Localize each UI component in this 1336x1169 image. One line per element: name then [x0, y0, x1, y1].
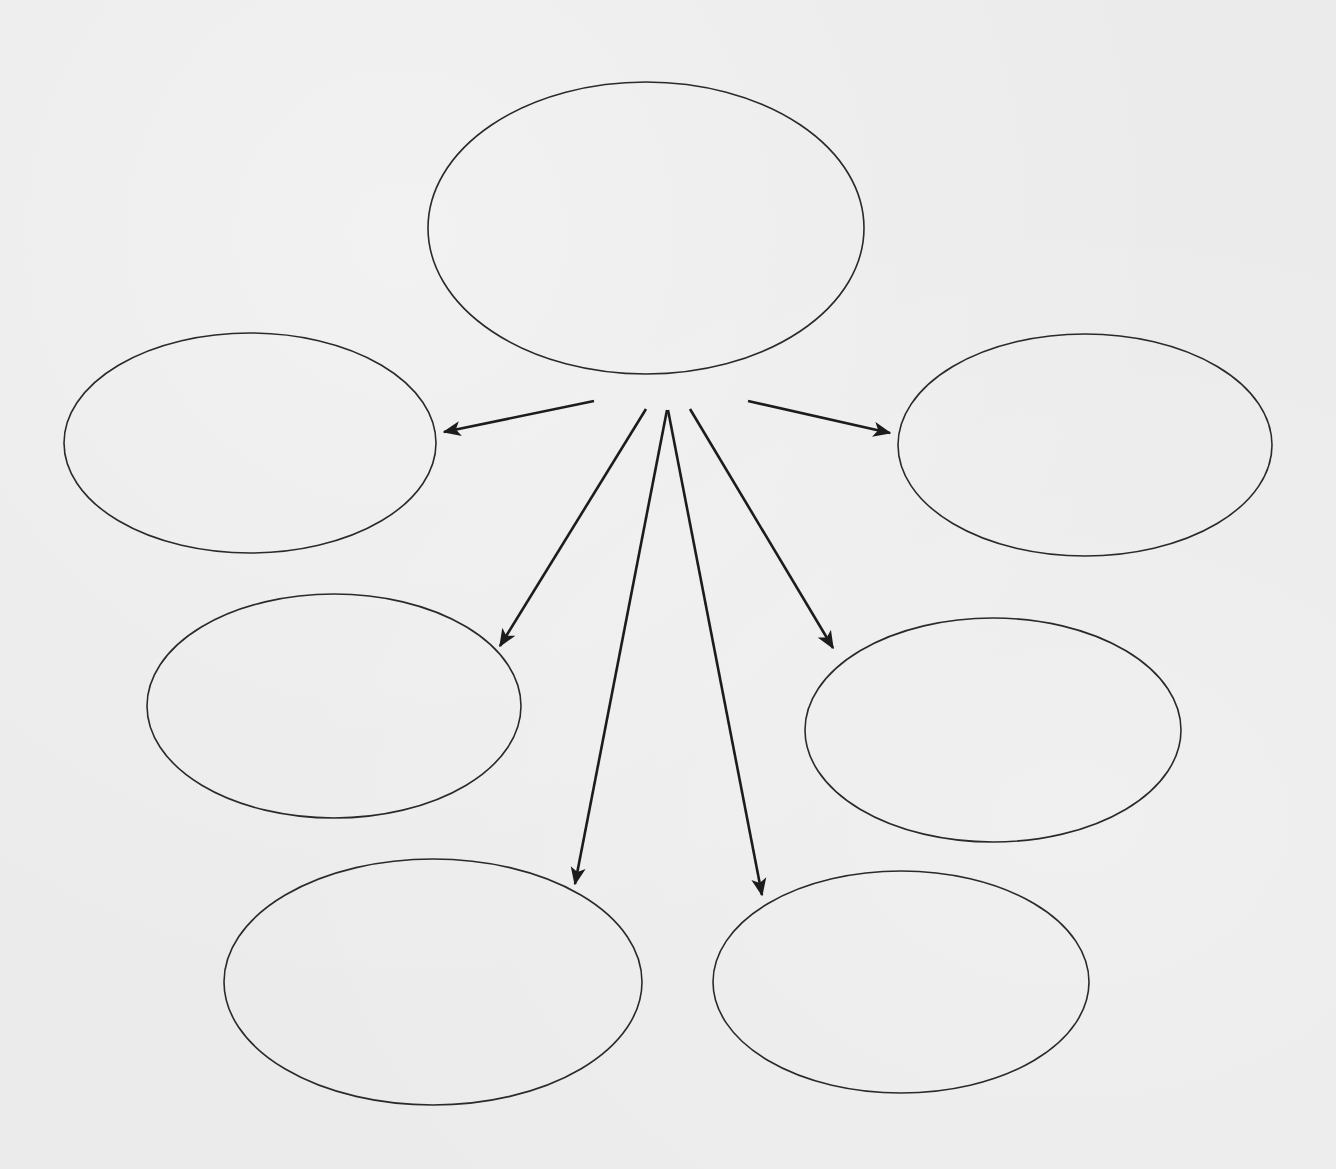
oval-group — [64, 82, 1272, 1105]
branch-oval-lower-right[interactable] — [713, 871, 1089, 1093]
branch-oval-middle-right[interactable] — [805, 618, 1181, 842]
arrow-group — [444, 401, 890, 895]
oval-shape[interactable] — [898, 334, 1272, 556]
branch-oval-upper-right[interactable] — [898, 334, 1272, 556]
arrow-upper-right — [748, 401, 890, 433]
oval-shape[interactable] — [713, 871, 1089, 1093]
branch-oval-upper-left[interactable] — [64, 333, 436, 553]
oval-shape[interactable] — [147, 594, 521, 818]
arrow-middle-left — [500, 409, 646, 646]
central-oval[interactable] — [428, 82, 864, 374]
oval-shape[interactable] — [224, 859, 642, 1105]
branch-oval-middle-left[interactable] — [147, 594, 521, 818]
central-oval-shape[interactable] — [428, 82, 864, 374]
oval-shape[interactable] — [805, 618, 1181, 842]
oval-shape[interactable] — [64, 333, 436, 553]
branch-oval-lower-left[interactable] — [224, 859, 642, 1105]
arrow-lower-right — [668, 410, 762, 895]
arrow-middle-right — [690, 409, 833, 648]
arrow-upper-left — [444, 401, 594, 432]
arrow-lower-left — [575, 410, 667, 884]
web-diagram — [0, 0, 1336, 1169]
